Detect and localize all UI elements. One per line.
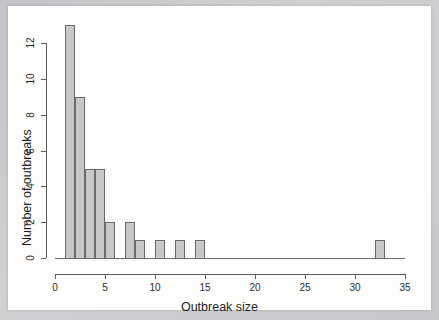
x-tick-label-30: 30: [349, 282, 360, 293]
histogram-bar: [105, 222, 115, 259]
x-tick-label-25: 25: [299, 282, 310, 293]
histogram-bar: [65, 25, 75, 259]
y-tick-10: [41, 79, 46, 80]
y-axis-title: Number of outbreaks: [20, 129, 34, 246]
histogram-plot: 02468101205101520253035Outbreak sizeNumb…: [8, 6, 431, 310]
y-axis-line: [46, 43, 47, 258]
x-axis-title: Outbreak size: [8, 300, 431, 314]
x-tick-20: [255, 274, 256, 279]
y-tick-label-8: 8: [25, 108, 36, 122]
histogram-bar: [175, 240, 185, 259]
x-tick-label-20: 20: [249, 282, 260, 293]
histogram-bar: [195, 240, 205, 259]
y-tick-label-10: 10: [25, 72, 36, 86]
figure-paper: 02468101205101520253035Outbreak sizeNumb…: [8, 6, 431, 310]
x-tick-5: [105, 274, 106, 279]
histogram-bar: [75, 97, 85, 259]
x-tick-label-10: 10: [149, 282, 160, 293]
histogram-bar: [375, 240, 385, 259]
histogram-bar: [125, 222, 135, 259]
histogram-bar: [95, 169, 105, 260]
x-tick-15: [205, 274, 206, 279]
x-tick-label-35: 35: [399, 282, 410, 293]
y-tick-label-12: 12: [25, 36, 36, 50]
histogram-bar: [85, 169, 95, 260]
y-tick-8: [41, 115, 46, 116]
y-tick-2: [41, 222, 46, 223]
y-tick-label-0: 0: [25, 251, 36, 265]
histogram-bar: [135, 240, 145, 259]
x-tick-label-5: 5: [102, 282, 108, 293]
screenshot-background: 02468101205101520253035Outbreak sizeNumb…: [0, 0, 439, 320]
x-tick-0: [55, 274, 56, 279]
y-tick-0: [41, 258, 46, 259]
y-tick-6: [41, 151, 46, 152]
x-tick-label-0: 0: [52, 282, 58, 293]
x-axis-line: [55, 274, 405, 275]
x-tick-30: [355, 274, 356, 279]
x-tick-35: [405, 274, 406, 279]
x-tick-10: [155, 274, 156, 279]
y-tick-12: [41, 43, 46, 44]
x-tick-25: [305, 274, 306, 279]
histogram-bar: [155, 240, 165, 259]
y-tick-4: [41, 186, 46, 187]
x-tick-label-15: 15: [199, 282, 210, 293]
